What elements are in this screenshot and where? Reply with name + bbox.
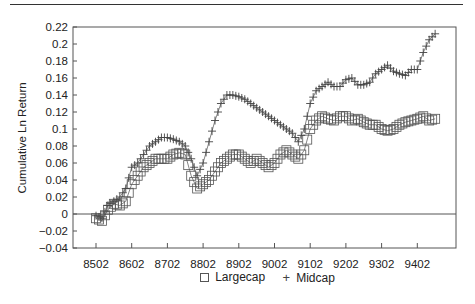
y-tick-label: 0.12 <box>46 106 68 118</box>
chart: −0.04−0.0200.020.040.060.080.10.120.140.… <box>0 0 475 270</box>
legend: Largecap + Midcap <box>0 270 475 285</box>
y-tick-label: 0.02 <box>46 191 68 203</box>
legend-item-largecap: Largecap <box>200 270 265 284</box>
x-axis: 8502860287028802890290029102920293029402 <box>83 243 430 270</box>
x-tick-label: 9302 <box>369 258 395 270</box>
legend-item-midcap: + Midcap <box>283 271 335 285</box>
x-tick-label: 8802 <box>190 258 216 270</box>
square-marker-icon <box>200 273 209 282</box>
y-tick-label: 0.22 <box>46 21 68 33</box>
y-tick-label: 0.18 <box>46 55 68 67</box>
x-tick-label: 8902 <box>226 258 252 270</box>
y-tick-label: −0.02 <box>39 225 68 237</box>
x-tick-label: 9402 <box>405 258 431 270</box>
y-tick-label: −0.04 <box>39 242 69 254</box>
plus-marker-icon: + <box>283 273 291 283</box>
series-largecap <box>92 112 440 226</box>
legend-label-largecap: Largecap <box>215 270 265 284</box>
plot-frame <box>73 27 456 248</box>
y-tick-label: 0.1 <box>52 123 68 135</box>
x-tick-label: 8702 <box>155 258 181 270</box>
y-tick-label: 0.08 <box>46 140 68 152</box>
y-tick-label: 0.14 <box>46 89 69 101</box>
x-tick-label: 9002 <box>262 258 288 270</box>
x-tick-label: 8502 <box>83 258 109 270</box>
y-axis-title: Cumulative Ln Return <box>16 82 28 193</box>
y-tick-label: 0.04 <box>46 174 69 186</box>
x-tick-label: 9102 <box>297 258 323 270</box>
y-axis: −0.04−0.0200.020.040.060.080.10.120.140.… <box>39 21 77 254</box>
x-tick-label: 9202 <box>333 258 359 270</box>
x-tick-label: 8602 <box>119 258 145 270</box>
legend-label-midcap: Midcap <box>296 271 335 285</box>
y-tick-label: 0.06 <box>46 157 68 169</box>
y-tick-label: 0.16 <box>46 72 68 84</box>
y-tick-label: 0.2 <box>52 38 68 50</box>
y-tick-label: 0 <box>62 208 68 220</box>
